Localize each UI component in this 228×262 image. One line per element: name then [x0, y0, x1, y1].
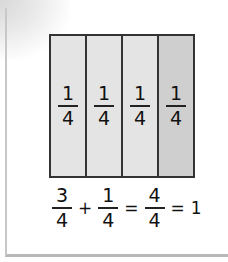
- numerator: 1: [168, 84, 184, 104]
- fraction-one-quarter: 1 4: [94, 84, 114, 128]
- equals-sign: =: [124, 198, 138, 218]
- numerator: 1: [100, 186, 116, 206]
- denominator: 4: [134, 109, 146, 128]
- denominator: 4: [98, 109, 110, 128]
- quarter-bar: 1 4: [87, 36, 123, 176]
- fraction-four-quarters: 4 4: [145, 186, 165, 230]
- result-value: 1: [191, 198, 202, 218]
- numerator: 4: [146, 186, 162, 206]
- fraction-one-quarter: 1 4: [58, 84, 78, 128]
- plus-sign: +: [78, 198, 92, 218]
- fraction-equation: 3 4 + 1 4 = 4 4 = 1: [52, 183, 202, 233]
- denominator: 4: [56, 211, 68, 230]
- denominator: 4: [170, 109, 182, 128]
- equals-sign: =: [171, 198, 185, 218]
- fraction-one-quarter: 1 4: [130, 84, 150, 128]
- fraction-one-quarter: 1 4: [166, 84, 186, 128]
- quarter-bar: 1 4: [123, 36, 159, 176]
- numerator: 1: [132, 84, 148, 104]
- fraction-three-quarters: 3 4: [52, 186, 72, 230]
- numerator: 1: [96, 84, 112, 104]
- numerator: 3: [54, 186, 70, 206]
- fraction-bar-diagram: 1 4 1 4 1 4 1 4: [49, 34, 195, 178]
- numerator: 1: [60, 84, 76, 104]
- quarter-bar-highlighted: 1 4: [159, 36, 193, 176]
- denominator: 4: [102, 211, 114, 230]
- denominator: 4: [148, 211, 160, 230]
- fraction-one-quarter: 1 4: [98, 186, 118, 230]
- quarter-bar: 1 4: [51, 36, 87, 176]
- denominator: 4: [62, 109, 74, 128]
